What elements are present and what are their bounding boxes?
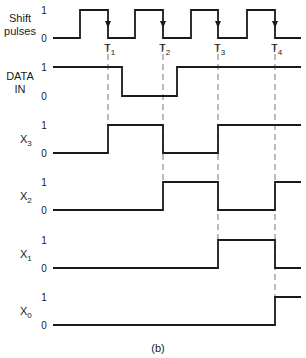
x1-waveform <box>53 240 301 268</box>
x3-label: X3 <box>20 133 32 148</box>
falling-edge-arrow-icon <box>160 21 166 28</box>
x3-waveform <box>53 125 301 153</box>
x0-waveform <box>53 297 301 325</box>
x3-level-1: 1 <box>41 120 47 131</box>
x2-level-1: 1 <box>41 177 47 188</box>
shift-pulses-level-1: 1 <box>41 5 47 16</box>
data-in-label: DATA <box>6 70 34 82</box>
falling-edge-arrow-icon <box>215 21 221 28</box>
x0-level-1: 1 <box>41 292 47 303</box>
shift-pulses-waveform <box>53 10 301 38</box>
time-marker-t2: T2 <box>159 42 171 57</box>
data-in-waveform <box>53 67 301 96</box>
time-marker-t3: T3 <box>214 42 226 57</box>
signal-labels: 10Shiftpulses10DATAIN10X310X210X110X0 <box>4 5 47 331</box>
shift-pulses-level-0: 0 <box>41 33 47 44</box>
shift-pulses-label: Shift <box>9 12 31 24</box>
falling-edge-arrow-icon <box>272 21 278 28</box>
x1-level-0: 0 <box>41 263 47 274</box>
x3-level-0: 0 <box>41 148 47 159</box>
data-in-level-1: 1 <box>41 62 47 73</box>
x0-label: X0 <box>20 305 32 320</box>
shift-pulses-label-line2: pulses <box>4 25 36 37</box>
timing-diagram: 10Shiftpulses10DATAIN10X310X210X110X0 T1… <box>0 0 306 358</box>
x1-level-1: 1 <box>41 235 47 246</box>
data-in-level-0: 0 <box>41 91 47 102</box>
time-marker-t1: T1 <box>104 42 116 57</box>
data-in-label-line2: IN <box>15 83 26 95</box>
time-marker-t4: T4 <box>271 42 283 57</box>
x2-level-0: 0 <box>41 205 47 216</box>
x2-label: X2 <box>20 190 32 205</box>
x0-level-0: 0 <box>41 320 47 331</box>
waveforms <box>53 10 301 325</box>
figure-caption: (b) <box>151 342 164 354</box>
x1-label: X1 <box>20 248 32 263</box>
dashed-time-guides <box>108 44 275 297</box>
time-marker-labels: T1T2T3T4 <box>104 42 283 57</box>
x2-waveform <box>53 182 301 210</box>
falling-edge-arrow-icon <box>105 21 111 28</box>
